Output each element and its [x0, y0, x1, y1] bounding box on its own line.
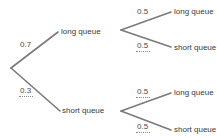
probability-answer-short-long: 0.5: [136, 88, 150, 98]
branch-root-to-long-queue: [11, 32, 58, 68]
probability-answer-short-short: 0.5: [136, 123, 150, 133]
probability-answer-long-short: 0.5: [136, 42, 150, 52]
outcome-label-short-short-queue: short queue: [174, 126, 216, 134]
outcome-label-short-long-queue: long queue: [174, 89, 214, 97]
probability-answer-short-queue-l1: 0.3: [19, 87, 33, 97]
outcome-label-long-long-queue: long queue: [174, 8, 214, 16]
probability-label-long-queue-l1: 0.7: [20, 41, 31, 49]
tree-diagram-lines: [0, 0, 217, 137]
outcome-label-long-queue-l1: long queue: [61, 28, 101, 36]
outcome-label-long-short-queue: short queue: [174, 44, 216, 52]
probability-label-long-long: 0.5: [137, 8, 148, 16]
outcome-label-short-queue-l1: short queue: [62, 107, 104, 115]
